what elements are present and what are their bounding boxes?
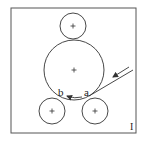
feed-line: [89, 70, 133, 96]
label-figure-id: I: [130, 121, 133, 132]
roller-main: [44, 40, 104, 100]
roller-diagram: b a I: [0, 0, 145, 142]
label-point-b: b: [58, 86, 64, 98]
roller-bottom-left: [39, 98, 65, 124]
center-mark-icon: [50, 109, 55, 114]
diagram-frame: [11, 8, 136, 133]
roller-top: [60, 13, 86, 39]
center-mark-icon: [93, 109, 98, 114]
label-point-a: a: [84, 86, 89, 98]
center-mark-icon: [71, 24, 76, 29]
feed-direction-arrow-icon: [113, 67, 129, 77]
roller-bottom-right: [82, 98, 108, 124]
rotation-arrow-icon: [67, 96, 82, 98]
center-mark-icon: [72, 68, 77, 73]
